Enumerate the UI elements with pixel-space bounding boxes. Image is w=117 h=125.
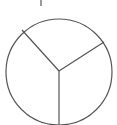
divider-upper-left [22,30,59,71]
divider-upper-right [59,42,104,71]
circle-diagram [0,0,117,125]
